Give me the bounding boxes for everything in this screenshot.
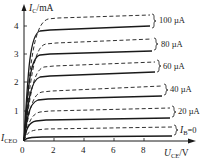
y-tick-label-3: 3	[14, 49, 19, 59]
characteristic-curves	[24, 15, 172, 141]
x-tick-label-4: 4	[81, 145, 86, 155]
annotation-40ua: 40 µA	[170, 84, 193, 94]
y-axis-label: IC/mA	[28, 3, 54, 14]
curve-40ua-dashed	[24, 86, 162, 141]
x-tick-label-2: 2	[51, 145, 56, 155]
curve-100ua-dashed	[24, 15, 150, 141]
y-tick-label-2: 2	[14, 77, 19, 87]
curve-100ua-solid	[24, 26, 150, 141]
x-tick-label-8: 8	[141, 145, 146, 155]
brace-icon-40ua	[164, 84, 168, 95]
x-axis-label: UCE/V	[164, 148, 189, 159]
brace-icon-60ua	[157, 60, 161, 72]
x-tick-label-0: 0	[20, 145, 25, 155]
brace-icon-ib0	[174, 125, 178, 135]
brace-icon-20ua	[172, 106, 176, 117]
curve-ib0-dashed	[24, 127, 172, 141]
x-tick-label-6: 6	[111, 145, 116, 155]
y-tick-label-1: 1	[14, 106, 19, 116]
brace-icon-80ua	[154, 38, 158, 50]
annotation-ib0: IB=0	[179, 125, 197, 136]
y-axis-arrow-icon	[22, 4, 27, 11]
brace-icon-100ua	[152, 14, 156, 28]
chart-svg: 1 2 3 4 0 2 4 6 8 IC/mA UCE/V ICEO	[0, 0, 205, 167]
x-axis-arrow-icon	[188, 139, 196, 144]
brace-icons	[152, 14, 178, 135]
curve-60ua-solid	[24, 72, 155, 141]
origin-iceo-label: ICEO	[0, 133, 17, 144]
y-tick-label-4: 4	[14, 21, 19, 31]
annotation-80ua: 80 µA	[161, 39, 184, 49]
annotation-20ua: 20 µA	[178, 106, 201, 116]
curve-ib0-solid	[24, 136, 172, 141]
annotation-60ua: 60 µA	[163, 61, 186, 71]
transistor-output-characteristics-chart: 1 2 3 4 0 2 4 6 8 IC/mA UCE/V ICEO	[0, 0, 205, 167]
annotation-100ua: 100 µA	[159, 15, 186, 25]
